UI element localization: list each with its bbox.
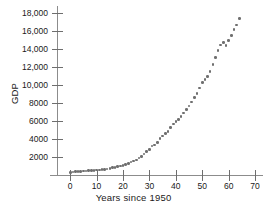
data-point: [143, 153, 146, 156]
data-point: [238, 17, 241, 20]
y-axis-title: GDP: [9, 74, 20, 114]
x-tick-label: 20: [110, 182, 136, 191]
data-point: [198, 87, 201, 90]
x-tick-label: 60: [216, 182, 242, 191]
data-point: [167, 130, 170, 133]
data-point: [193, 96, 196, 99]
y-tick-label: 8000: [4, 99, 48, 108]
data-point: [159, 137, 162, 140]
x-tick-label: 40: [163, 182, 189, 191]
data-point: [212, 63, 215, 66]
data-point: [188, 105, 191, 108]
data-point: [153, 144, 156, 147]
data-point: [172, 123, 175, 126]
data-point: [148, 148, 151, 151]
data-point: [219, 44, 222, 47]
y-tick-label: 14,000: [4, 45, 48, 54]
y-tick-label: 4000: [4, 135, 48, 144]
data-point: [185, 108, 188, 111]
y-tick-label: 6000: [4, 117, 48, 126]
data-point: [235, 24, 238, 27]
data-point: [177, 118, 180, 121]
gdp-scatter-chart: GDP Years since 1950 200040006000800010,…: [0, 0, 267, 207]
y-tick-label: 2000: [4, 153, 48, 162]
data-point: [227, 39, 230, 42]
data-point: [206, 75, 209, 78]
x-axis-line: [50, 175, 263, 176]
y-tick-label: 16,000: [4, 27, 48, 36]
data-point: [209, 70, 212, 73]
data-point: [196, 92, 199, 95]
x-tick-label: 0: [57, 182, 83, 191]
data-point: [169, 126, 172, 129]
data-point: [156, 141, 159, 144]
data-point: [140, 155, 143, 158]
data-point: [217, 49, 220, 52]
x-tick-label: 30: [136, 182, 162, 191]
x-tick-label: 10: [84, 182, 110, 191]
data-point: [180, 115, 183, 118]
data-point: [233, 28, 236, 31]
y-tick-label: 18,000: [4, 9, 48, 18]
data-point: [204, 78, 207, 81]
data-point: [201, 81, 204, 84]
plot-area: [57, 8, 257, 175]
x-axis-title: Years since 1950: [0, 192, 267, 203]
y-tick-label: 10,000: [4, 81, 48, 90]
x-tick-label: 50: [189, 182, 215, 191]
data-point: [135, 159, 138, 162]
data-point: [225, 44, 228, 47]
data-point: [190, 101, 193, 104]
data-point: [214, 56, 217, 59]
data-point: [161, 135, 164, 138]
data-point: [182, 112, 185, 115]
y-tick-label: 12,000: [4, 63, 48, 72]
x-tick-label: 70: [242, 182, 267, 191]
data-point: [230, 34, 233, 37]
data-point: [164, 132, 167, 135]
